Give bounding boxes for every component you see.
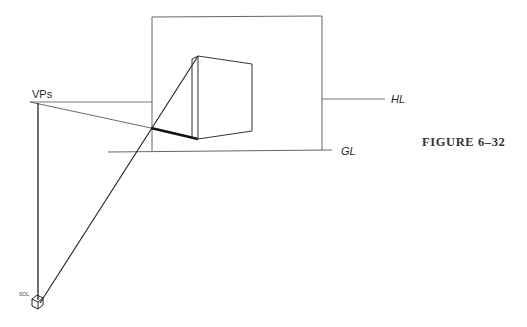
- sol-label: SOL: [19, 291, 29, 297]
- measured-segment: [151, 128, 198, 139]
- ground-line: [108, 150, 332, 152]
- horizon-line: [30, 99, 385, 102]
- picture-plane: [152, 16, 322, 151]
- hl-label: HL: [391, 93, 405, 105]
- vps-label: VPs: [32, 88, 53, 100]
- vanishing-line: [30, 102, 151, 128]
- sight-line: [40, 56, 198, 303]
- perspective-diagram: VPs HL GL SOL FIGURE 6–32: [0, 0, 527, 327]
- gl-label: GL: [341, 145, 356, 157]
- figure-caption: FIGURE 6–32: [422, 135, 505, 149]
- cube: [192, 56, 252, 139]
